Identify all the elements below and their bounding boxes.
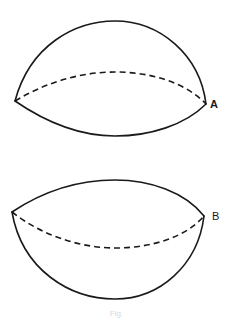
diagram-figure: A B Fig. [0,0,233,319]
shape-a-dashed-rim [15,72,206,104]
shape-a-lower-rim [15,101,206,136]
shape-b-lower-arc [12,212,204,299]
shape-b-dashed-rim [12,212,204,248]
shape-a-upper-arc [15,21,206,104]
figure-caption: Fig. [0,309,233,318]
shape-b-upper-rim [12,180,204,216]
label-b: B [212,211,219,222]
shape-a-dome [15,21,206,136]
label-a: A [210,99,218,110]
shape-b-bowl [12,180,204,299]
diagram-canvas [0,0,233,319]
